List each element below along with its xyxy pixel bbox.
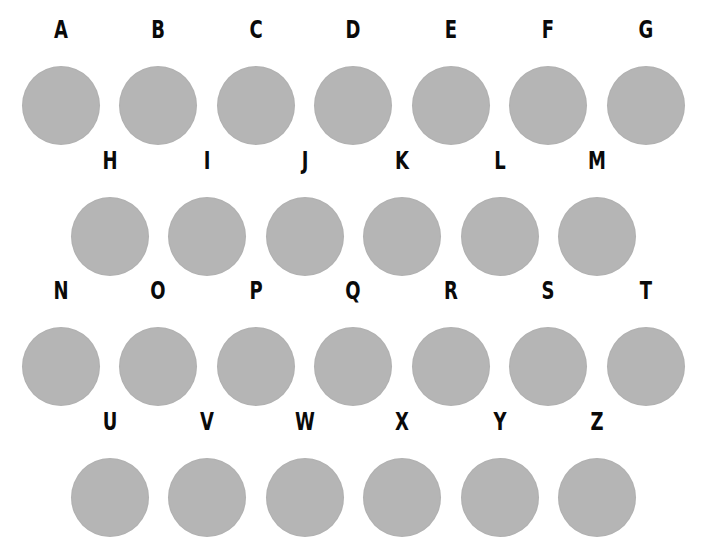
letter-label: D xyxy=(321,15,386,45)
letter-label: A xyxy=(29,15,94,45)
circle-button-e[interactable] xyxy=(412,66,490,145)
letter-label: W xyxy=(273,407,338,437)
letter-cell-v[interactable]: V xyxy=(162,407,252,553)
circle-button-g[interactable] xyxy=(607,66,685,145)
letter-label: R xyxy=(419,276,484,306)
circle-button-m[interactable] xyxy=(558,197,636,276)
circle-button-s[interactable] xyxy=(509,327,587,406)
letter-label: P xyxy=(224,276,289,306)
letter-label: G xyxy=(614,15,679,45)
letter-cell-w[interactable]: W xyxy=(260,407,350,553)
letter-label: X xyxy=(370,407,435,437)
circle-button-i[interactable] xyxy=(168,197,246,276)
circle-button-f[interactable] xyxy=(509,66,587,145)
letter-cell-x[interactable]: X xyxy=(357,407,447,553)
circle-button-b[interactable] xyxy=(119,66,197,145)
circle-button-u[interactable] xyxy=(71,458,149,537)
circle-button-r[interactable] xyxy=(412,327,490,406)
circle-button-t[interactable] xyxy=(607,327,685,406)
circle-button-x[interactable] xyxy=(363,458,441,537)
letter-label: L xyxy=(468,146,533,176)
letter-label: S xyxy=(516,276,581,306)
letter-label: U xyxy=(78,407,143,437)
circle-button-j[interactable] xyxy=(266,197,344,276)
letter-label: Y xyxy=(468,407,533,437)
letter-label: Q xyxy=(321,276,386,306)
circle-button-v[interactable] xyxy=(168,458,246,537)
letter-label: B xyxy=(126,15,191,45)
circle-button-n[interactable] xyxy=(22,327,100,406)
letter-label: V xyxy=(175,407,240,437)
letter-label: J xyxy=(273,146,338,176)
letter-cell-y[interactable]: Y xyxy=(455,407,545,553)
letter-label: E xyxy=(419,15,484,45)
letter-label: N xyxy=(29,276,94,306)
circle-button-c[interactable] xyxy=(217,66,295,145)
circle-button-p[interactable] xyxy=(217,327,295,406)
letter-label: M xyxy=(565,146,630,176)
circle-button-q[interactable] xyxy=(314,327,392,406)
circle-button-z[interactable] xyxy=(558,458,636,537)
letter-label: K xyxy=(370,146,435,176)
letter-cell-u[interactable]: U xyxy=(65,407,155,553)
circle-button-k[interactable] xyxy=(363,197,441,276)
letter-label: C xyxy=(224,15,289,45)
circle-button-d[interactable] xyxy=(314,66,392,145)
circle-button-w[interactable] xyxy=(266,458,344,537)
letter-label: I xyxy=(175,146,240,176)
circle-button-h[interactable] xyxy=(71,197,149,276)
circle-button-a[interactable] xyxy=(22,66,100,145)
letter-label: F xyxy=(516,15,581,45)
circle-button-y[interactable] xyxy=(461,458,539,537)
circle-button-o[interactable] xyxy=(119,327,197,406)
circle-button-l[interactable] xyxy=(461,197,539,276)
letter-label: H xyxy=(78,146,143,176)
letter-label: O xyxy=(126,276,191,306)
letter-cell-z[interactable]: Z xyxy=(552,407,642,553)
letter-label: T xyxy=(614,276,679,306)
letter-label: Z xyxy=(565,407,630,437)
